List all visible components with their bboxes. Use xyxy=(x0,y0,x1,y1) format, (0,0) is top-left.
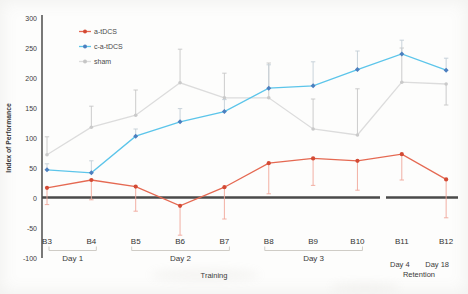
y-tick-label: 100 xyxy=(25,135,37,142)
data-point-c-a-tDCS xyxy=(222,109,227,114)
day-group-bracket xyxy=(265,247,363,251)
x-category-label: B7 xyxy=(220,237,230,246)
legend-item-a-tdcs: a-tDCS xyxy=(79,28,117,35)
data-point-sham xyxy=(45,153,49,157)
retention-phase-label: Retention xyxy=(403,270,435,279)
data-point-a-tDCS xyxy=(267,161,271,165)
y-tick-label: 200 xyxy=(25,75,37,82)
x-category-label: B4 xyxy=(86,237,96,246)
day-group-label: Day 3 xyxy=(303,254,324,263)
x-axis-title: Training xyxy=(201,271,228,280)
data-point-sham xyxy=(90,125,94,129)
c-a-tdcs-marker-icon xyxy=(83,45,87,49)
data-point-c-a-tDCS xyxy=(45,167,50,172)
data-point-a-tDCS xyxy=(89,178,93,182)
legend-label-sham: sham xyxy=(94,58,111,65)
x-category-label: B12 xyxy=(439,237,454,246)
x-category-label: B10 xyxy=(350,237,365,246)
data-point-a-tDCS xyxy=(45,186,49,190)
data-point-sham xyxy=(311,127,315,131)
data-point-sham xyxy=(400,80,404,84)
data-point-sham xyxy=(223,96,227,100)
legend-item-sham: sham xyxy=(79,58,111,65)
y-tick-label: -50 xyxy=(27,225,37,232)
day-group-bracket xyxy=(132,247,230,251)
x-category-label: B11 xyxy=(395,237,409,246)
day-group-label: Day 1 xyxy=(62,254,83,263)
y-tick-label: 0 xyxy=(33,195,37,202)
x-category-label: B6 xyxy=(175,237,185,246)
data-point-a-tDCS xyxy=(400,152,404,156)
data-point-sham xyxy=(356,133,360,137)
data-point-sham xyxy=(134,113,138,117)
data-point-sham xyxy=(178,81,182,85)
data-point-sham xyxy=(444,82,448,86)
y-tick-label: 300 xyxy=(25,15,37,22)
data-point-a-tDCS xyxy=(222,185,226,189)
a-tdcs-marker-icon xyxy=(83,30,87,34)
x-category-label: B3 xyxy=(42,237,52,246)
y-tick-label: 50 xyxy=(29,165,37,172)
series-line-c-a-tDCS xyxy=(47,54,446,173)
data-point-a-tDCS xyxy=(134,185,138,189)
day-group-bracket xyxy=(49,247,96,251)
chart-plot-area: 300250200150100500-50-100B3B4B5B6B7B8B9B… xyxy=(23,15,458,270)
legend-item-c-a-tdcs: c-a-tDCS xyxy=(79,43,123,50)
data-point-c-a-tDCS xyxy=(355,67,360,72)
data-point-a-tDCS xyxy=(311,156,315,160)
legend-label-c-a-tdcs: c-a-tDCS xyxy=(94,43,123,50)
y-axis-title: Index of Performance xyxy=(5,103,12,173)
data-point-a-tDCS xyxy=(178,204,182,208)
data-point-a-tDCS xyxy=(355,159,359,163)
data-point-c-a-tDCS xyxy=(311,83,316,88)
y-tick-label: 150 xyxy=(25,105,37,112)
data-point-c-a-tDCS xyxy=(266,86,271,91)
y-tick-label: -100 xyxy=(23,255,37,262)
legend-label-a-tdcs: a-tDCS xyxy=(94,28,117,35)
data-point-c-a-tDCS xyxy=(178,119,183,124)
x-category-label: B9 xyxy=(308,237,318,246)
performance-line-chart: 300250200150100500-50-100B3B4B5B6B7B8B9B… xyxy=(0,0,468,294)
x-category-label: B5 xyxy=(131,237,141,246)
data-point-a-tDCS xyxy=(444,177,448,181)
figure-canvas: 300250200150100500-50-100B3B4B5B6B7B8B9B… xyxy=(0,0,468,294)
day-group-label: Day 18 xyxy=(425,260,449,269)
sham-marker-icon xyxy=(83,60,87,64)
x-category-label: B8 xyxy=(264,237,274,246)
legend: a-tDCS c-a-tDCS sham xyxy=(79,28,123,65)
data-point-c-a-tDCS xyxy=(444,68,449,73)
data-point-sham xyxy=(267,96,271,100)
day-group-label: Day 4 xyxy=(390,260,410,269)
day-group-label: Day 2 xyxy=(170,254,191,263)
data-point-c-a-tDCS xyxy=(399,52,404,57)
y-tick-label: 250 xyxy=(25,45,37,52)
series-line-sham xyxy=(47,82,446,155)
